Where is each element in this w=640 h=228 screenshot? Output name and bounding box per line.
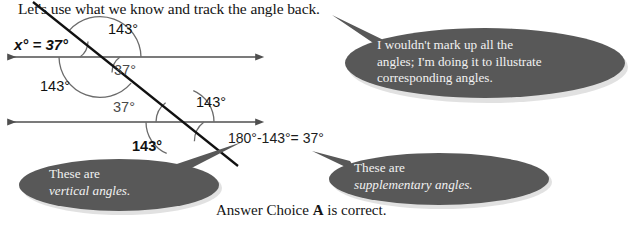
angle-label-x-equals: x° = 37° (14, 37, 68, 52)
worked-solution-figure: Let's use what we know and track the ang… (0, 0, 640, 228)
answer-choice: A (313, 202, 324, 218)
angle-label-top-143: 143° (108, 22, 138, 37)
angle-label-bottom-37: 37° (113, 100, 135, 115)
callout-text-vertical: These are vertical angles. (49, 166, 229, 199)
callout-text-supplementary: These are supplementary angles. (354, 160, 559, 193)
angle-label-top-37: 37° (114, 63, 136, 78)
answer-prefix: Answer Choice (216, 202, 313, 218)
answer-line: Answer Choice A is correct. (216, 202, 386, 219)
corresponding-angles-callout: I wouldn't mark up all the angles; I'm d… (330, 10, 635, 110)
callout-text-corresponding: I wouldn't mark up all the angles; I'm d… (377, 37, 627, 87)
angle-label-left-143: 143° (40, 79, 70, 94)
answer-suffix: is correct. (324, 202, 387, 218)
vertical-angles-callout: These are vertical angles. (14, 140, 249, 222)
angle-label-bottom-right-143: 143° (196, 95, 226, 110)
